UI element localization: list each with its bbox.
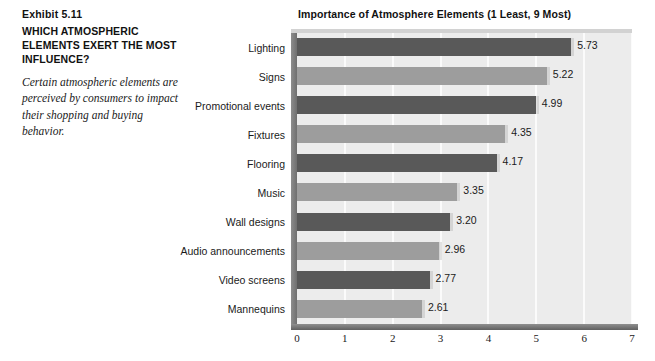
chart-title: Importance of Atmosphere Elements (1 Lea… (298, 8, 636, 20)
x-tick-0: 0 (294, 332, 300, 344)
category-label-row: Music (130, 178, 290, 207)
bar (297, 38, 571, 56)
chart-header: Importance of Atmosphere Elements (1 Lea… (296, 8, 636, 28)
category-label-row: Lighting (130, 33, 290, 62)
bar-shadow (430, 271, 433, 289)
category-label: Mannequins (228, 303, 290, 315)
bar-value-label: 4.17 (503, 155, 523, 167)
bar-shadow (547, 67, 550, 85)
bar (297, 300, 422, 318)
category-label-row: Audio announcements (130, 237, 290, 266)
category-label: Audio announcements (181, 245, 291, 257)
bar (297, 271, 430, 289)
bar-shadow (450, 213, 453, 231)
bar-row: 2.61 (297, 295, 632, 324)
bar-value-label: 4.99 (542, 97, 562, 109)
bar-value-label: 2.96 (445, 243, 465, 255)
category-label-row: Flooring (130, 149, 290, 178)
bar-row: 2.77 (297, 266, 632, 295)
bar-value-label: 5.22 (553, 68, 573, 80)
x-tick-1: 1 (342, 332, 348, 344)
bar (297, 213, 450, 231)
x-axis-tick-labels: 01234567 (297, 332, 632, 352)
bar-value-label: 5.73 (577, 39, 597, 51)
bar-series: 5.735.224.994.354.173.353.202.962.772.61 (297, 33, 632, 324)
bar-row: 4.17 (297, 149, 632, 178)
plot-area-wrapper: 5.735.224.994.354.173.353.202.962.772.61 (297, 33, 632, 324)
category-label-row: Wall designs (130, 208, 290, 237)
category-label: Video screens (219, 274, 290, 286)
bar-shadow (439, 242, 442, 260)
x-tick-5: 5 (534, 332, 540, 344)
category-label: Wall designs (226, 216, 290, 228)
bar-value-label: 3.20 (456, 214, 476, 226)
bar-row: 5.22 (297, 62, 632, 91)
bar-shadow (536, 96, 539, 114)
category-label: Fixtures (248, 129, 290, 141)
category-label: Promotional events (195, 100, 290, 112)
bar-shadow (505, 125, 508, 143)
bar-shadow (422, 300, 425, 318)
category-label-row: Mannequins (130, 295, 290, 324)
category-label-row: Video screens (130, 266, 290, 295)
bar (297, 242, 439, 260)
category-label: Music (258, 187, 290, 199)
category-label-row: Fixtures (130, 120, 290, 149)
exhibit-number: Exhibit 5.11 (22, 8, 182, 20)
x-axis-line (291, 324, 638, 330)
bar-shadow (571, 38, 574, 56)
bar-value-label: 2.61 (428, 301, 448, 313)
x-tick-3: 3 (438, 332, 444, 344)
bar-row: 4.35 (297, 120, 632, 149)
x-tick-7: 7 (629, 332, 635, 344)
bar-shadow (497, 154, 500, 172)
bar-row: 2.96 (297, 237, 632, 266)
bar (297, 183, 457, 201)
x-tick-6: 6 (581, 332, 587, 344)
bar-row: 3.20 (297, 208, 632, 237)
bar (297, 67, 547, 85)
bar-value-label: 2.77 (436, 272, 456, 284)
x-tick-4: 4 (486, 332, 492, 344)
category-axis-labels: LightingSignsPromotional eventsFixturesF… (130, 33, 290, 324)
exhibit-figure: Exhibit 5.11 WHICH ATMOSPHERIC ELEMENTS … (0, 0, 655, 361)
bar-value-label: 3.35 (463, 184, 483, 196)
bar (297, 154, 497, 172)
bar-value-label: 4.35 (511, 126, 531, 138)
bar (297, 96, 536, 114)
x-tick-2: 2 (390, 332, 396, 344)
category-label: Flooring (247, 158, 290, 170)
bar-row: 5.73 (297, 33, 632, 62)
bar-shadow (457, 183, 460, 201)
bar (297, 125, 505, 143)
bar-row: 4.99 (297, 91, 632, 120)
bar-row: 3.35 (297, 178, 632, 207)
category-label-row: Signs (130, 62, 290, 91)
category-label: Lighting (248, 42, 290, 54)
category-label: Signs (259, 71, 290, 83)
category-label-row: Promotional events (130, 91, 290, 120)
plot-area: 5.735.224.994.354.173.353.202.962.772.61 (297, 33, 632, 324)
